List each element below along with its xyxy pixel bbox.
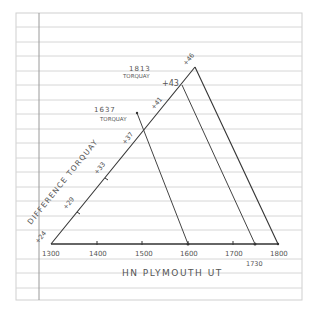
annotation-1637-year: 1637 bbox=[94, 106, 116, 114]
tick-label-1800: 1800 bbox=[270, 250, 288, 258]
notebook-chart: 1300 1400 1500 1600 1700 1800 1730 HN PL… bbox=[0, 0, 315, 314]
tick-label-1300: 1300 bbox=[42, 250, 60, 258]
tick-label-1500: 1500 bbox=[135, 250, 153, 258]
tick-label-1400: 1400 bbox=[89, 250, 107, 258]
point-37 bbox=[136, 112, 138, 114]
x-axis-title: HN PLYMOUTH UT bbox=[122, 268, 223, 278]
tick-label-1700: 1700 bbox=[225, 250, 243, 258]
annotation-1813-label: TORQUAY bbox=[122, 73, 150, 79]
annotation-1637-label: TORQUAY bbox=[99, 116, 127, 122]
tick-label-1730: 1730 bbox=[246, 260, 263, 268]
annotation-1813-year: 1813 bbox=[129, 65, 151, 73]
tick-label-1600: 1600 bbox=[180, 250, 198, 258]
side-label-43: +43 bbox=[162, 79, 179, 88]
